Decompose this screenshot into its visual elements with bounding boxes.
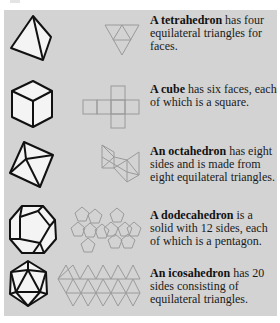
octahedron-icon: [10, 142, 53, 187]
term-octahedron: An octahedron: [150, 144, 226, 158]
tetrahedron-icon: [11, 16, 51, 60]
octahedron-description: An octahedron has eight sides and is mad…: [150, 145, 278, 184]
dodecahedron-net-icon: [71, 207, 141, 252]
term-tetrahedron: A tetrahedron: [150, 13, 222, 27]
cube-icon: [12, 81, 52, 127]
icosahedron-icon: [10, 261, 47, 306]
icosahedron-net-icon: [58, 265, 140, 306]
dodecahedron-icon: [10, 206, 56, 253]
cube-description: A cube has six faces, each of which is a…: [150, 83, 278, 109]
term-cube: A cube: [150, 82, 185, 96]
cube-net-icon: [83, 86, 139, 128]
term-icosahedron: An icosahedron: [150, 266, 230, 280]
tetrahedron-description: A tetrahedron has four equilateral trian…: [150, 14, 278, 53]
term-dodecahedron: A dodecahedron: [150, 208, 233, 222]
dodecahedron-description: A dodecahedron is a solid with 12 sides,…: [150, 209, 278, 248]
tetrahedron-net-icon: [105, 25, 139, 55]
octahedron-net-icon: [102, 145, 139, 182]
icosahedron-description: An icosahedron has 20 sides consisting o…: [150, 267, 278, 306]
